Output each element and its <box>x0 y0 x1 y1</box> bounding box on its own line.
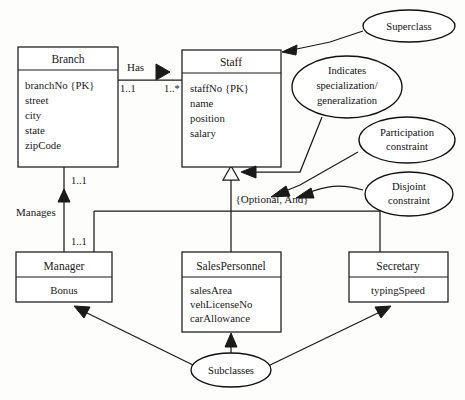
callout-subclasses[interactable]: Subclasses <box>191 353 271 387</box>
association-has: Has 1..1 1..* <box>120 61 180 94</box>
arrowhead-icon <box>375 306 391 318</box>
association-manages: 1..1 Manages 1..1 <box>16 175 87 247</box>
multiplicity-source: 1..1 <box>71 175 87 186</box>
class-name-staff: Staff <box>220 56 242 68</box>
class-attr: position <box>190 112 225 124</box>
has-direction-triangle-icon <box>156 64 170 80</box>
class-attr: carAllowance <box>190 312 250 324</box>
arrowhead-icon <box>74 306 90 318</box>
class-box-staff[interactable]: Staff staffNo {PK} name position salary <box>182 50 281 167</box>
association-manages-line <box>58 167 70 252</box>
arrowhead-icon <box>282 45 297 55</box>
class-attr: state <box>25 124 45 136</box>
callout-label: generalization <box>317 95 378 106</box>
callout-superclass[interactable]: Superclass <box>363 10 455 42</box>
callout-leader-disjoint <box>296 186 363 198</box>
class-name-manager: Manager <box>44 260 85 273</box>
class-box-branch[interactable]: Branch branchNo {PK} street city state z… <box>18 47 118 167</box>
callout-leader-subclasses-manager <box>74 306 197 367</box>
multiplicity-source: 1..1 <box>120 83 136 94</box>
class-attr: staffNo {PK} <box>190 82 249 94</box>
class-name-salespersonnel: SalesPersonnel <box>196 260 266 272</box>
generalization-tree <box>94 166 380 252</box>
class-attr: street <box>25 94 48 106</box>
arrowhead-icon <box>225 333 237 347</box>
callout-leader-subclasses-secretary <box>266 306 391 367</box>
class-attr: vehLicenseNo <box>190 298 252 310</box>
class-attr: branchNo {PK} <box>25 79 94 91</box>
class-attr: zipCode <box>25 139 61 151</box>
callout-label: specialization/ <box>316 80 377 91</box>
callout-label: constraint <box>388 195 430 206</box>
arrowhead-icon <box>271 186 290 197</box>
multiplicity-target: 1..1 <box>71 236 87 247</box>
class-attr: Bonus <box>50 284 78 296</box>
arrowhead-icon <box>241 166 256 178</box>
class-box-manager[interactable]: Manager Bonus <box>16 252 112 302</box>
class-name-secretary: Secretary <box>376 260 420 273</box>
callout-disjoint[interactable]: Disjoint constraint <box>365 172 453 216</box>
callout-label: Indicates <box>328 65 366 76</box>
callout-label: Superclass <box>386 21 431 32</box>
diagram-svg: Branch branchNo {PK} street city state z… <box>0 0 465 400</box>
generalization-constraint-label: {Optional, And} <box>236 193 309 205</box>
callout-participation[interactable]: Participation constraint <box>359 117 455 163</box>
callout-label: Subclasses <box>208 365 254 376</box>
class-box-salespersonnel[interactable]: SalesPersonnel salesArea vehLicenseNo ca… <box>182 252 281 332</box>
class-box-secretary[interactable]: Secretary typingSpeed <box>349 252 448 302</box>
class-attr: name <box>190 97 214 109</box>
association-label-manages: Manages <box>16 206 56 218</box>
class-attr: city <box>25 109 42 121</box>
uml-diagram-canvas: Branch branchNo {PK} street city state z… <box>0 0 465 400</box>
association-label-has: Has <box>127 61 144 73</box>
manages-triangle-icon <box>58 189 70 202</box>
callout-specialization[interactable]: Indicates specialization/ generalization <box>292 56 402 118</box>
callout-label: Participation <box>380 127 435 138</box>
multiplicity-target: 1..* <box>164 83 180 94</box>
class-attr: typingSpeed <box>371 284 426 296</box>
generalization-triangle-icon <box>223 166 239 180</box>
class-attr: salesArea <box>190 284 232 296</box>
class-attr: salary <box>190 127 216 139</box>
callout-label: Disjoint <box>392 181 426 192</box>
callout-leader-superclass <box>282 31 363 55</box>
class-name-branch: Branch <box>51 53 84 65</box>
callout-label: constraint <box>386 141 428 152</box>
